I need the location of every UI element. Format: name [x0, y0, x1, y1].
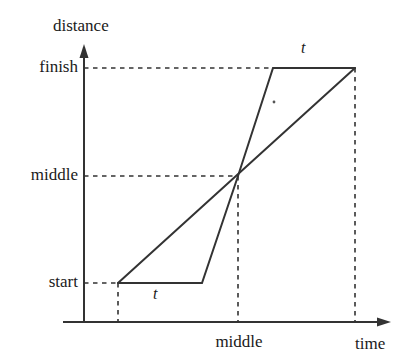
scan-artifact-dot: [273, 101, 276, 104]
constant-speed-line: [118, 68, 355, 283]
y-tick-label-middle: middle: [2, 166, 78, 183]
x-tick-label-middle: middle: [206, 333, 272, 350]
x-axis-arrowhead: [377, 318, 391, 327]
segment-label-t-top: t: [301, 40, 305, 56]
y-axis-arrowhead: [80, 44, 89, 58]
y-tick-label-start: start: [8, 273, 78, 290]
distance-time-graph-figure: distance time finish middle start middle…: [0, 0, 412, 363]
x-axis-title: time: [355, 335, 385, 352]
segment-label-t-bottom: t: [153, 286, 157, 302]
y-axis-title: distance: [53, 17, 109, 34]
y-tick-label-finish: finish: [8, 58, 78, 75]
